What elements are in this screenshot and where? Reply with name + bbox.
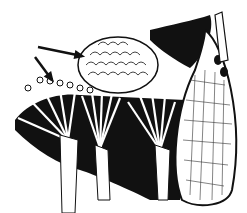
cauliflower-mass	[78, 37, 158, 93]
illustration-canvas	[0, 0, 247, 213]
ink-illustration	[0, 0, 247, 213]
arrows	[35, 47, 82, 80]
